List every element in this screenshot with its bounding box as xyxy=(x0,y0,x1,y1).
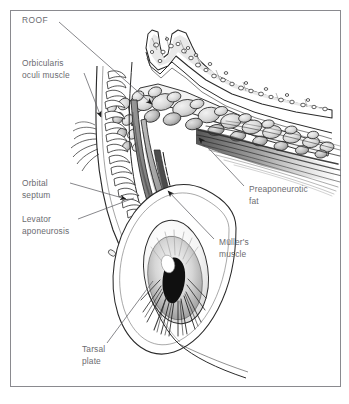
label-orbital-septum: Orbital septum xyxy=(22,178,50,200)
anatomy-illustration-canvas: ROOF Orbicularis oculi muscle Orbital se… xyxy=(0,0,349,404)
anatomical-figure: ROOF Orbicularis oculi muscle Orbital se… xyxy=(0,0,349,404)
label-roof: ROOF xyxy=(22,15,48,25)
label-orbicularis-oculi-muscle: Orbicularis oculi muscle xyxy=(22,58,70,80)
